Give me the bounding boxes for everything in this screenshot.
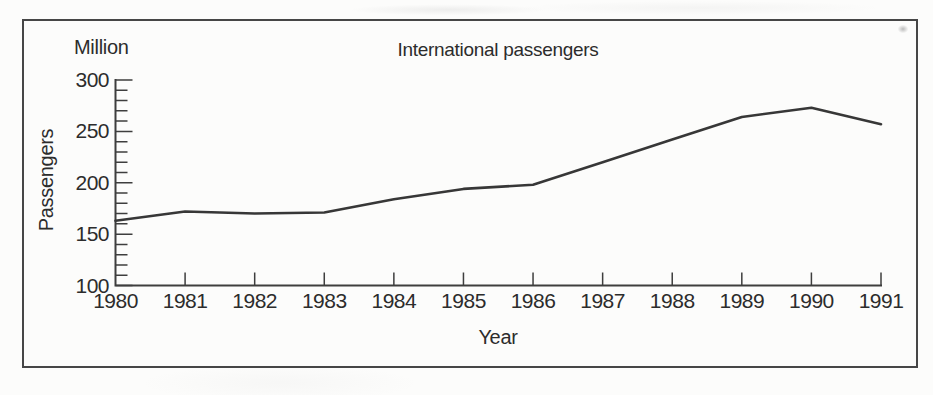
figure-canvas: Million International passengers Passeng… <box>0 0 933 395</box>
chart-frame <box>22 19 918 368</box>
x-axis-tick-label: 1986 <box>498 289 568 313</box>
x-axis-tick-label: 1985 <box>428 289 498 313</box>
x-axis-tick-label: 1981 <box>150 289 220 313</box>
y-axis-tick-label: 150 <box>61 222 109 246</box>
y-axis-title: Passengers <box>34 105 58 255</box>
y-axis-tick-label: 200 <box>61 171 109 195</box>
chart-title: International passengers <box>115 39 881 61</box>
x-axis-tick-label: 1980 <box>81 289 151 313</box>
x-axis-tick-label: 1987 <box>568 289 638 313</box>
x-axis-tick-label: 1983 <box>289 289 359 313</box>
x-axis-tick-label: 1991 <box>846 289 916 313</box>
y-axis-tick-label: 300 <box>61 68 109 92</box>
x-axis-tick-label: 1982 <box>220 289 290 313</box>
x-axis-tick-label: 1988 <box>637 289 707 313</box>
x-axis-tick-label: 1984 <box>359 289 429 313</box>
x-axis-title: Year <box>115 326 881 349</box>
x-axis-tick-label: 1990 <box>776 289 846 313</box>
y-axis-tick-label: 250 <box>61 119 109 143</box>
x-axis-tick-label: 1989 <box>707 289 777 313</box>
